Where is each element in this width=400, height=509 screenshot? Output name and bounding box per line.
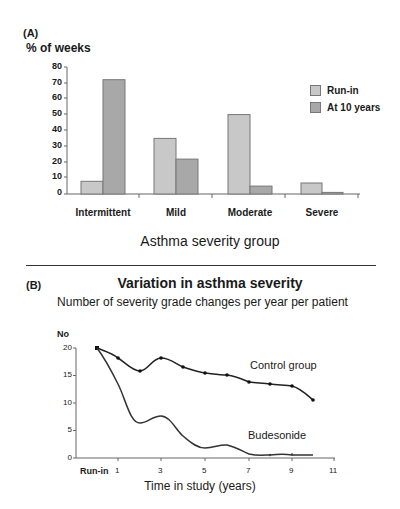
bar-mild-runin [154, 138, 176, 194]
legend-swatch-10-years [310, 102, 321, 113]
panel-a-x-axis-title: Asthma severity group [60, 233, 360, 249]
legend-swatch-runin [310, 85, 321, 96]
panel-b-title: Variation in asthma severity [60, 275, 360, 291]
control-group-markers [95, 346, 315, 402]
bar-moderate-10y [250, 186, 272, 194]
legend-label: Run-in [327, 85, 359, 96]
line-chart [0, 330, 400, 470]
category-label: Severe [277, 207, 367, 218]
section-divider [26, 265, 376, 266]
x-tick: 3 [158, 466, 162, 475]
x-tick: Run-in [80, 466, 109, 476]
panel-b-subtitle: Number of severity grade changes per yea… [30, 295, 375, 309]
bar-severe-10y [322, 192, 343, 194]
control-group-label: Control group [250, 359, 317, 371]
bar-mild-10y [176, 159, 198, 194]
x-tick: 1 [115, 466, 119, 475]
x-tick: 5 [202, 466, 206, 475]
budesonide-label: Budesonide [248, 429, 306, 441]
x-tick: 9 [289, 466, 293, 475]
bar-severe-runin [301, 183, 322, 194]
bar-intermittent-10y [103, 80, 125, 194]
bar-chart [0, 0, 400, 260]
legend-label: At 10 years [327, 102, 380, 113]
bar-moderate-runin [228, 115, 250, 194]
legend-item-10-years: At 10 years [310, 102, 380, 113]
bar-intermittent-runin [81, 181, 103, 194]
panel-b-label: (B) [26, 279, 41, 291]
panel-b-x-axis-title: Time in study (years) [80, 479, 320, 493]
x-tick: 11 [329, 466, 337, 475]
x-tick: 7 [246, 466, 250, 475]
legend-item-runin: Run-in [310, 85, 359, 96]
